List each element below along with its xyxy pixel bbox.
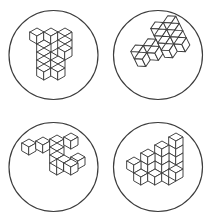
icon-panel-bottom-right[interactable] (107, 111, 214, 223)
block-figure-l-shape-tilted (107, 0, 214, 111)
icon-panel-top-left[interactable] (0, 0, 107, 111)
icon-panel-top-right[interactable] (107, 0, 214, 111)
icon-panel-bottom-left[interactable] (0, 111, 107, 223)
block-figure-staircase (107, 111, 214, 223)
block-figure-f-shape (0, 0, 107, 111)
block-figure-z-shape (0, 111, 107, 223)
block-figure-icon-grid (0, 0, 214, 223)
